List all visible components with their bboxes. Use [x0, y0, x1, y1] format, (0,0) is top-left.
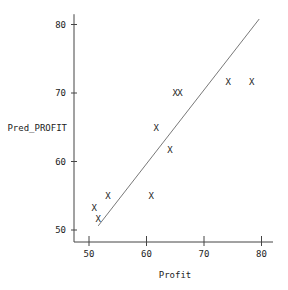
x-tick-label: 70	[199, 249, 210, 259]
data-point-marker: X	[91, 203, 97, 213]
data-point-marker: X	[225, 77, 231, 87]
data-point-marker: X	[148, 191, 154, 201]
axes: 5060708050607080	[55, 14, 273, 259]
data-point-marker: X	[167, 145, 173, 155]
data-points: XXXXXXXXXX	[91, 77, 255, 224]
data-point-marker: X	[95, 214, 101, 224]
x-tick-label: 80	[256, 249, 267, 259]
fit-line	[98, 19, 259, 226]
x-tick-label: 50	[84, 249, 95, 259]
data-point-marker: X	[105, 191, 111, 201]
x-axis-title: Profit	[159, 270, 192, 280]
data-point-marker: X	[154, 123, 160, 133]
y-tick-label: 70	[55, 88, 66, 98]
data-point-marker: X	[249, 77, 255, 87]
y-axis-title: Pred_PROFIT	[7, 123, 67, 133]
y-tick-label: 80	[55, 20, 66, 30]
y-tick-label: 60	[55, 157, 66, 167]
x-tick-label: 60	[141, 249, 152, 259]
scatter-chart: 5060708050607080 XXXXXXXXXX Profit Pred_…	[0, 0, 288, 290]
data-point-marker: X	[177, 88, 183, 98]
regression-line	[98, 19, 259, 226]
y-tick-label: 50	[55, 225, 66, 235]
